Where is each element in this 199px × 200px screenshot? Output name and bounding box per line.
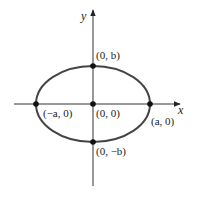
- label-top: (0, b): [96, 50, 120, 61]
- point-left: [33, 101, 39, 107]
- label-left: (−a, 0): [43, 108, 72, 119]
- label-bottom: (0, −b): [96, 146, 126, 157]
- point-right: [147, 101, 153, 107]
- point-center: [90, 101, 96, 107]
- ellipse-diagram: y x (0, b) (0, −b) (−a, 0) (a, 0) (0, 0): [0, 0, 199, 200]
- point-top: [90, 63, 96, 69]
- label-center: (0, 0): [96, 108, 120, 119]
- diagram-canvas: [0, 0, 199, 200]
- label-right: (a, 0): [151, 116, 174, 127]
- y-axis-label: y: [81, 10, 86, 22]
- point-bottom: [90, 139, 96, 145]
- x-axis-label: x: [178, 104, 183, 116]
